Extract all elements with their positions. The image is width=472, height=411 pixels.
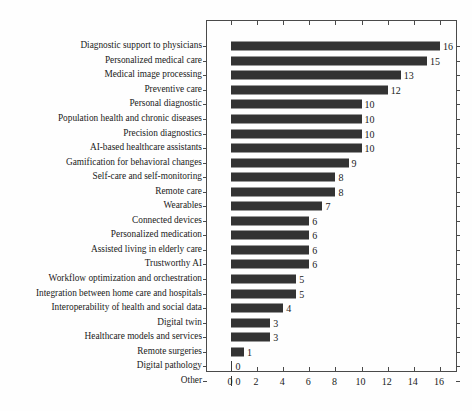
x-axis-tick: [257, 367, 258, 371]
y-axis-tick: [203, 46, 207, 47]
y-axis-tick-right: [456, 323, 460, 324]
bar: [231, 260, 309, 269]
category-label: Medical image processing: [104, 69, 202, 79]
y-axis-tick: [203, 264, 207, 265]
x-axis-tick-label: 4: [280, 376, 285, 388]
bar: [231, 42, 440, 51]
x-axis-tick-label: 10: [356, 376, 366, 388]
bar-value-label: 10: [365, 128, 375, 139]
y-axis-tick-right: [456, 352, 460, 353]
bar-value-label: 6: [312, 259, 317, 270]
y-axis-tick-right: [456, 279, 460, 280]
bar-value-label: 12: [391, 84, 401, 95]
category-label: Remote surgeries: [137, 346, 202, 356]
y-axis-tick: [203, 294, 207, 295]
bar: [231, 202, 322, 211]
y-axis-tick-right: [456, 235, 460, 236]
bar-value-label: 4: [286, 303, 291, 314]
bar: [231, 361, 232, 371]
y-axis-tick: [203, 163, 207, 164]
bar: [231, 333, 270, 342]
y-axis-tick: [203, 221, 207, 222]
category-label: Personalized medical care: [105, 55, 202, 65]
y-axis-tick-right: [456, 308, 460, 309]
bar-value-label: 5: [299, 288, 304, 299]
y-axis-tick: [203, 75, 207, 76]
x-axis-tick: [440, 367, 441, 371]
bar-value-label: 5: [299, 274, 304, 285]
category-label: Digital twin: [157, 317, 202, 327]
bar: [231, 100, 362, 109]
x-axis-tick-top: [257, 21, 258, 25]
y-axis-tick: [203, 177, 207, 178]
bar: [231, 129, 362, 138]
x-axis-tick-label: 2: [254, 376, 259, 388]
y-axis-tick: [203, 104, 207, 105]
bar-value-label: 10: [365, 143, 375, 154]
y-axis-tick: [203, 323, 207, 324]
bar: [231, 187, 335, 196]
x-axis-tick-label: 6: [306, 376, 311, 388]
y-axis-tick: [203, 90, 207, 91]
plot-area: 16151312101010109887666655433100: [206, 20, 457, 372]
x-axis-tick-top: [440, 21, 441, 25]
category-label: Remote care: [155, 186, 202, 196]
x-axis-tick-top: [231, 21, 232, 25]
bar: [231, 216, 309, 225]
y-axis-tick-right: [456, 264, 460, 265]
category-label: Self-care and self-monitoring: [93, 171, 202, 181]
bar-value-label: 6: [312, 230, 317, 241]
category-label: Population health and chronic diseases: [58, 113, 202, 123]
y-axis-tick-right: [456, 61, 460, 62]
y-axis-tick-right: [456, 337, 460, 338]
x-axis-tick-label: 0: [228, 376, 233, 388]
bar-value-label: 0: [235, 375, 240, 386]
y-axis-tick: [203, 235, 207, 236]
y-axis-tick-right: [456, 206, 460, 207]
category-label: Gamification for behavioral changes: [66, 157, 202, 167]
y-axis-tick-right: [456, 192, 460, 193]
category-label: Workflow optimization and orchestration: [49, 273, 202, 283]
bar: [231, 231, 309, 240]
x-axis-tick: [414, 367, 415, 371]
y-axis-tick: [203, 352, 207, 353]
bar-value-label: 7: [325, 201, 330, 212]
y-axis-tick-right: [456, 119, 460, 120]
bar: [231, 144, 362, 153]
bar: [231, 304, 283, 313]
bar-value-label: 8: [338, 186, 343, 197]
category-label: Connected devices: [132, 215, 202, 225]
category-label: Preventive care: [144, 84, 202, 94]
bar: [231, 245, 309, 254]
x-axis-tick-top: [388, 21, 389, 25]
x-axis-tick-label: 8: [332, 376, 337, 388]
category-axis-labels: Diagnostic support to physiciansPersonal…: [0, 0, 202, 411]
y-axis-tick: [203, 61, 207, 62]
bar: [231, 318, 270, 327]
bar-value-label: 0: [235, 361, 240, 372]
category-label: Personal diagnostic: [129, 98, 202, 108]
y-axis-tick: [203, 279, 207, 280]
bar-value-label: 6: [312, 244, 317, 255]
category-label: AI-based healthcare assistants: [90, 142, 202, 152]
category-label: Other: [181, 375, 202, 385]
y-axis-tick-right: [456, 221, 460, 222]
x-axis-tick-top: [414, 21, 415, 25]
category-label: Personalized medication: [111, 229, 202, 239]
category-label: Trustworthy AI: [145, 258, 202, 268]
y-axis-tick-right: [456, 250, 460, 251]
bar: [231, 85, 388, 94]
y-axis-tick: [203, 119, 207, 120]
bar-value-label: 9: [352, 157, 357, 168]
x-axis-tick-label: 14: [408, 376, 418, 388]
category-label: Healthcare models and services: [85, 331, 202, 341]
bar: [231, 71, 401, 80]
bar-value-label: 13: [404, 70, 414, 81]
x-axis-tick: [388, 367, 389, 371]
y-axis-tick-right: [456, 381, 460, 382]
x-axis-tick: [283, 367, 284, 371]
category-label: Integration between home care and hospit…: [36, 288, 202, 298]
category-label: Diagnostic support to physicians: [80, 40, 202, 50]
category-label: Wearables: [164, 200, 202, 210]
y-axis-tick-right: [456, 366, 460, 367]
